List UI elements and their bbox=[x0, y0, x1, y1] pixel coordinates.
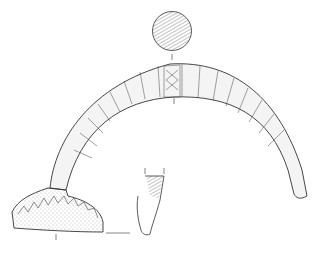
cross-section bbox=[153, 12, 192, 61]
bow bbox=[50, 64, 307, 198]
fibula-drawing bbox=[0, 0, 318, 259]
catch-profile bbox=[106, 168, 164, 235]
foot-plate bbox=[12, 188, 103, 240]
